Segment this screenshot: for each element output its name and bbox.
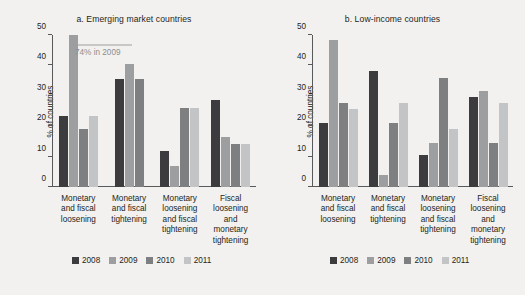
bar-2011 — [449, 129, 458, 187]
panel-a-ytick-label-30: 30 — [37, 82, 46, 91]
panel-b-x-labels: Monetaryand fiscalloosening Monetaryand … — [313, 194, 513, 246]
figure-canvas: a. Emerging market countries % of countr… — [0, 0, 525, 295]
bar-2009 — [69, 35, 78, 187]
bar-2011 — [241, 144, 250, 187]
legend-swatch-2011 — [184, 257, 191, 264]
panel-a-ytick-label-50: 50 — [37, 22, 46, 31]
panel-b-ytick-0 — [308, 186, 312, 187]
bar-2008 — [115, 79, 124, 187]
bar-group — [205, 35, 256, 187]
panel-a-x-labels: Monetaryand fiscalloosening Monetaryand … — [53, 194, 256, 246]
bar-2009 — [329, 40, 338, 187]
bar-2011 — [399, 103, 408, 187]
bar-2010 — [389, 123, 398, 187]
chart-panel-a: a. Emerging market countries % of countr… — [6, 14, 262, 246]
bar-group — [413, 35, 463, 187]
legend-swatch-2008 — [72, 257, 79, 264]
legend-item[interactable]: 2008 — [72, 256, 100, 265]
bar-2010 — [135, 79, 144, 187]
legend-item[interactable]: 2009 — [109, 256, 137, 265]
panel-a-ytick-label-0: 0 — [41, 174, 46, 183]
legend-item[interactable]: 2011 — [184, 256, 212, 265]
panel-a-ytick-50 — [48, 34, 52, 35]
panel-b-ytick-label-10: 10 — [297, 143, 306, 152]
x-axis-category-label: Monetaryand fiscalloosening — [53, 194, 104, 246]
panel-a-ytick-20 — [48, 125, 52, 126]
bar-2009 — [479, 91, 488, 187]
x-axis-category-label: Monetaryand fiscaltightening — [104, 194, 155, 246]
panel-b-ytick-30 — [308, 95, 312, 96]
panel-a-ytick-40 — [48, 64, 52, 65]
legend-swatch-2011 — [442, 257, 449, 264]
panel-a-ytick-label-40: 40 — [37, 52, 46, 61]
panel-a-ytick-30 — [48, 95, 52, 96]
bar-2011 — [499, 103, 508, 187]
legend-swatch-2009 — [367, 257, 374, 264]
panel-a-ytick-label-10: 10 — [37, 143, 46, 152]
panel-b-ytick-label-30: 30 — [297, 82, 306, 91]
bar-2008 — [59, 116, 68, 187]
panel-a-ytick-0 — [48, 186, 52, 187]
x-axis-category-label: Monetaryand fiscaltightening — [363, 194, 413, 246]
panel-b-ytick-label-50: 50 — [297, 22, 306, 31]
x-axis-category-label: Monetarylooseningand fiscaltightening — [155, 194, 206, 246]
panel-b-ytick-label-20: 20 — [297, 113, 306, 122]
bar-2011 — [190, 108, 199, 187]
bar-2010 — [339, 103, 348, 187]
bar-2010 — [439, 78, 448, 187]
chart-panel-b: b. Low-income countries % of countries 0… — [266, 14, 519, 246]
bar-2008 — [419, 155, 428, 187]
legend-item[interactable]: 2008 — [330, 256, 358, 265]
bar-2010 — [180, 108, 189, 187]
bar-2008 — [160, 151, 169, 187]
bar-group — [363, 35, 413, 187]
legend-item[interactable]: 2010 — [146, 256, 174, 265]
legend-label: 2008 — [82, 256, 100, 265]
panel-b-ytick-label-40: 40 — [297, 52, 306, 61]
bar-2011 — [349, 109, 358, 187]
bar-2008 — [469, 97, 478, 187]
bar-2008 — [211, 100, 220, 187]
legend-label: 2011 — [194, 256, 212, 265]
legend-label: 2008 — [340, 256, 358, 265]
bar-2008 — [319, 123, 328, 187]
bar-group — [53, 35, 104, 187]
legend-label: 2009 — [119, 256, 137, 265]
bar-group — [463, 35, 513, 187]
panel-b-bar-groups — [313, 35, 513, 187]
legend-label: 2011 — [452, 256, 470, 265]
panel-b-legend: 2008 2009 2010 2011 — [330, 256, 469, 265]
panel-b-ytick-20 — [308, 125, 312, 126]
bar-group — [104, 35, 155, 187]
bar-2010 — [489, 143, 498, 187]
legend-swatch-2010 — [146, 257, 153, 264]
panel-a-bar-groups — [53, 35, 256, 187]
bar-2010 — [231, 144, 240, 187]
panel-b-ytick-50 — [308, 34, 312, 35]
panel-a-plot-area: % of countries 0 10 20 30 40 50 — [52, 35, 256, 187]
bar-2009 — [221, 137, 230, 187]
x-axis-category-label: Fiscallooseningand monetarytightening — [463, 194, 513, 246]
bar-2009 — [125, 64, 134, 187]
bar-2010 — [79, 129, 88, 187]
legend-item[interactable]: 2010 — [404, 256, 432, 265]
legend-label: 2010 — [156, 256, 174, 265]
legend-label: 2009 — [377, 256, 395, 265]
legend-swatch-2008 — [330, 257, 337, 264]
bar-2009 — [170, 166, 179, 187]
legend-label: 2010 — [414, 256, 432, 265]
panel-b-ytick-10 — [308, 156, 312, 157]
bar-2008 — [369, 71, 378, 187]
bar-2011 — [89, 116, 98, 187]
legend-item[interactable]: 2011 — [442, 256, 470, 265]
x-axis-category-label: Monetarylooseningand fiscaltightening — [413, 194, 463, 246]
x-axis-category-label: Fiscallooseningand monetarytightening — [205, 194, 256, 246]
bar-2009 — [429, 143, 438, 187]
panel-b-plot-area: % of countries 0 10 20 30 40 50 — [312, 35, 513, 187]
bar-2009 — [379, 175, 388, 187]
panel-a-ytick-label-20: 20 — [37, 113, 46, 122]
legend-swatch-2010 — [404, 257, 411, 264]
panel-b-ytick-40 — [308, 64, 312, 65]
legend-swatch-2009 — [109, 257, 116, 264]
legend-item[interactable]: 2009 — [367, 256, 395, 265]
